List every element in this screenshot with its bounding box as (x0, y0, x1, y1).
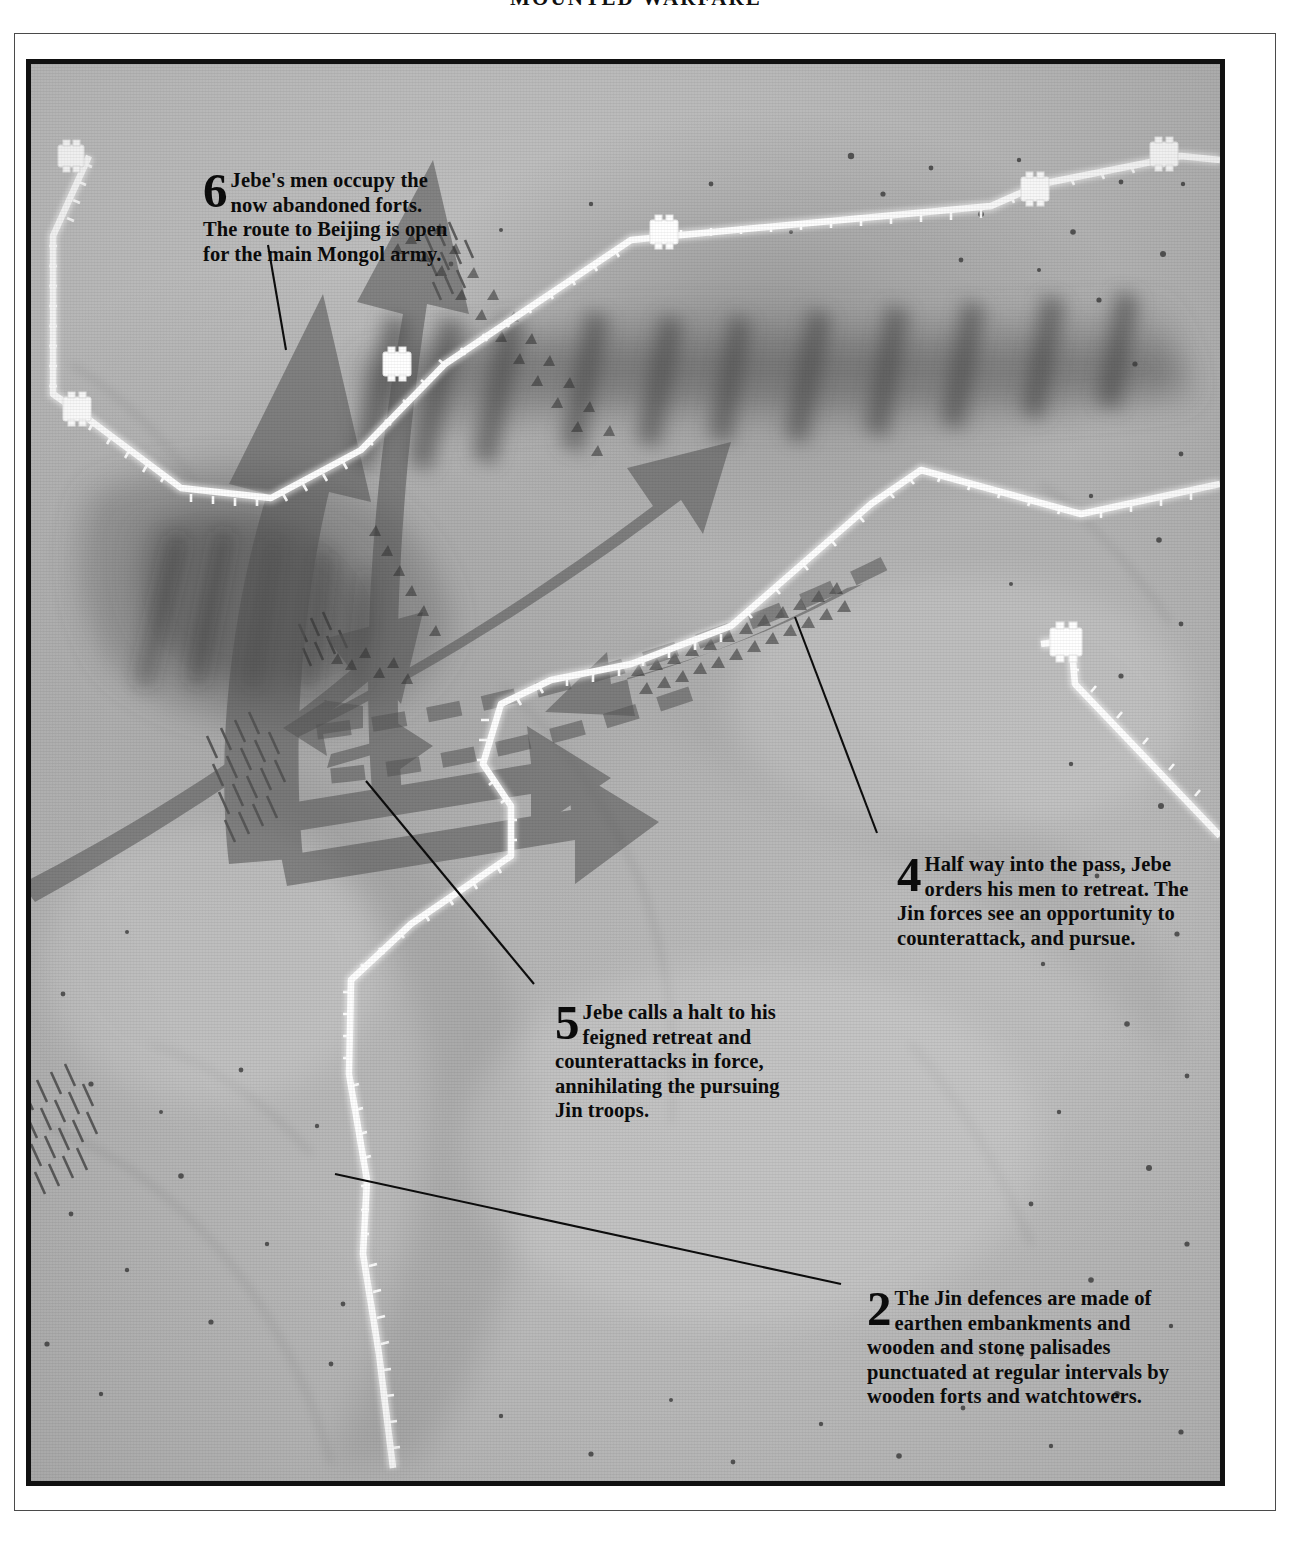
leader-line-2 (335, 1174, 841, 1284)
callout-2: 2The Jin defences are made of earthen em… (867, 1286, 1197, 1409)
callout-4-text: Half way into the pass, Jebe orders his … (897, 853, 1188, 949)
callout-4: 4Half way into the pass, Jebe orders his… (897, 852, 1197, 950)
callout-5-number: 5 (555, 1003, 580, 1042)
map-figure: 6Jebe's men occupy the now abandoned for… (26, 59, 1225, 1486)
leader-line-5 (366, 781, 534, 984)
callout-6-text: Jebe's men occupy the now abandoned fort… (203, 169, 447, 265)
callout-6: 6Jebe's men occupy the now abandoned for… (203, 168, 453, 266)
callout-2-text: The Jin defences are made of earthen emb… (867, 1287, 1169, 1407)
callout-leader-lines (31, 64, 1220, 1481)
callout-5: 5Jebe calls a halt to his feigned retrea… (555, 1000, 809, 1123)
callout-4-number: 4 (897, 855, 922, 894)
leader-line-4 (795, 617, 877, 833)
map-canvas: 6Jebe's men occupy the now abandoned for… (31, 64, 1220, 1481)
callout-6-number: 6 (203, 171, 228, 210)
callout-5-text: Jebe calls a halt to his feigned retreat… (555, 1001, 780, 1121)
running-head: MOUNTED WARFARE (0, 0, 1310, 16)
callout-2-number: 2 (867, 1289, 892, 1328)
